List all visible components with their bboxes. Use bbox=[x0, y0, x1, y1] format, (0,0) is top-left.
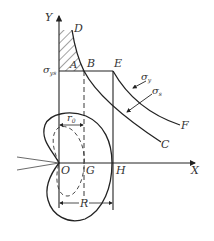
label-G: G bbox=[86, 164, 95, 177]
dashed-inner-zone bbox=[53, 127, 84, 197]
label-H: H bbox=[115, 164, 126, 177]
label-B: B bbox=[86, 57, 95, 70]
label-sigma-s: σs bbox=[152, 85, 162, 97]
plastic-zone-diagram: Y X D A B E F C O G H σys σy σs r0 R bbox=[0, 0, 214, 241]
label-sigma-ys: σys bbox=[43, 64, 56, 77]
curve-D-B-C bbox=[72, 30, 161, 142]
label-C: C bbox=[161, 138, 170, 151]
sigma-y-arrow bbox=[133, 81, 146, 88]
plastic-zone-boundary bbox=[44, 113, 112, 221]
label-A: A bbox=[69, 59, 77, 70]
crack-ray-lower bbox=[17, 163, 59, 170]
x-axis-label: X bbox=[190, 164, 200, 177]
label-R: R bbox=[79, 197, 88, 210]
label-F: F bbox=[180, 119, 189, 132]
diagram-svg: Y X D A B E F C O G H σys σy σs r0 R bbox=[0, 0, 214, 241]
label-O: O bbox=[61, 164, 70, 177]
label-sigma-y: σy bbox=[141, 71, 152, 84]
crack-ray-upper bbox=[17, 157, 59, 163]
label-D: D bbox=[73, 22, 83, 35]
label-E: E bbox=[113, 57, 122, 70]
y-axis-label: Y bbox=[45, 11, 54, 24]
